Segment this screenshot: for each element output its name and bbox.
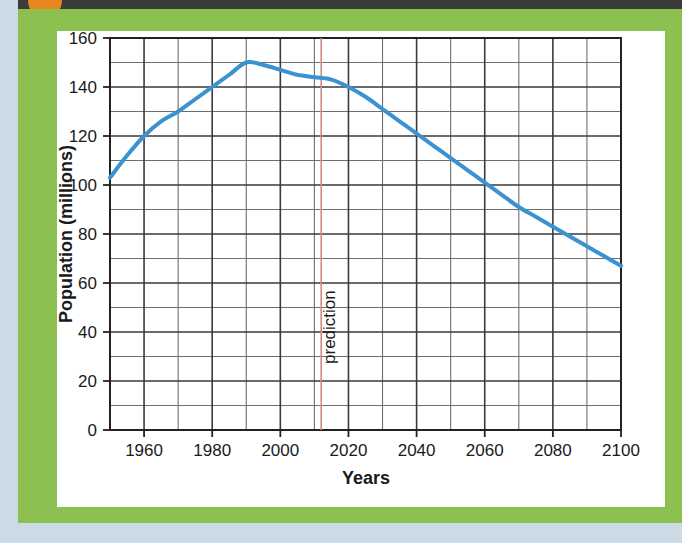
y-axis-tick-label: 140: [69, 78, 97, 97]
x-axis-tick-label: 1960: [125, 441, 163, 460]
y-axis-tick-label: 40: [78, 323, 97, 342]
series-line-population: [110, 62, 621, 266]
chart-svg: prediction 19601980200020202040206020802…: [0, 0, 682, 543]
x-axis-tick-label: 2100: [602, 441, 640, 460]
x-axis-tick-labels: 19601980200020202040206020802100: [125, 441, 640, 460]
chart-series: [110, 62, 621, 266]
x-axis-tick-label: 1980: [193, 441, 231, 460]
axis-tick-marks: [103, 38, 621, 437]
y-axis-tick-label: 0: [88, 421, 97, 440]
x-axis-tick-label: 2080: [534, 441, 572, 460]
x-axis-tick-label: 2040: [398, 441, 436, 460]
y-axis-title: Population (millions): [56, 145, 76, 323]
y-axis-tick-label: 160: [69, 29, 97, 48]
y-axis-tick-label: 80: [78, 225, 97, 244]
y-axis-tick-label: 60: [78, 274, 97, 293]
x-axis-title: Years: [342, 468, 390, 488]
prediction-label: prediction: [320, 290, 339, 364]
line-chart: prediction 19601980200020202040206020802…: [0, 0, 682, 543]
y-axis-tick-label: 120: [69, 127, 97, 146]
x-axis-tick-label: 2060: [466, 441, 504, 460]
x-axis-tick-label: 2020: [330, 441, 368, 460]
x-axis-tick-label: 2000: [261, 441, 299, 460]
figure-page: prediction 19601980200020202040206020802…: [0, 0, 682, 543]
y-axis-tick-label: 20: [78, 372, 97, 391]
